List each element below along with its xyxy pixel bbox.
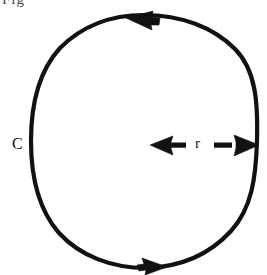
bottom-arrowhead-glyph [137, 258, 167, 275]
circle-diagram-svg [0, 0, 267, 275]
circle-curve [31, 15, 257, 268]
curve-label-c: C [12, 136, 23, 152]
radius-arrow-left-head [150, 136, 173, 155]
radius-arrow-left [150, 136, 186, 155]
circle-curve-group [31, 15, 257, 268]
radius-label-r: r [195, 136, 200, 151]
radius-arrow-right [214, 135, 259, 156]
radius-arrow-right-shaft [214, 143, 232, 148]
bottom-orientation-arrowhead [137, 258, 167, 275]
figure-canvas: Fig C r [0, 0, 267, 275]
radius-arrow-left-shaft [170, 143, 186, 148]
